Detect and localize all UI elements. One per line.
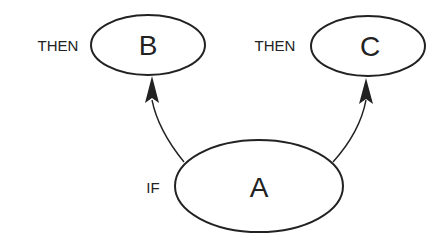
edge-a-to-c	[333, 78, 373, 162]
node-a-label: A	[250, 172, 269, 203]
node-a: A IF	[146, 140, 343, 232]
then-label-b: THEN	[38, 37, 79, 54]
if-label: IF	[146, 179, 159, 196]
node-b: B THEN	[38, 15, 205, 75]
arrowhead-icon	[145, 76, 159, 103]
then-label-c: THEN	[255, 37, 296, 54]
node-b-label: B	[139, 30, 158, 61]
node-c-label: C	[360, 31, 380, 62]
edge-a-to-b	[145, 76, 184, 162]
if-then-diagram: B THEN C THEN A IF	[0, 0, 447, 246]
node-c: C THEN	[255, 16, 425, 76]
